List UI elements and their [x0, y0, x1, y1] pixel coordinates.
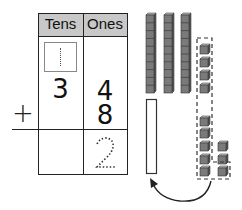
empty-ten-rod [147, 100, 157, 174]
ten-rod-1 [146, 13, 156, 93]
regroup-arrow-icon [153, 181, 211, 201]
ten-rod-2 [164, 13, 174, 93]
base-ten-blocks [0, 0, 242, 210]
ten-rod-3 [181, 13, 191, 93]
